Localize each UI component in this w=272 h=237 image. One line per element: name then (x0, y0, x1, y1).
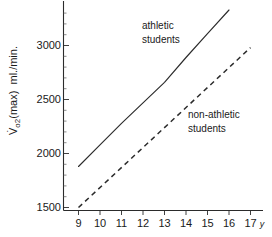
y-tick-label-1500: 1500 (37, 201, 61, 213)
annotation-athletic-line-2: students (142, 34, 180, 45)
chart-figure: 3000 2500 2000 1500 9 10 11 12 13 14 15 … (0, 0, 272, 237)
x-tick-label-15: 15 (201, 217, 213, 229)
annotation-athletic-line-1: athletic (142, 20, 174, 31)
chart-plot-area: 3000 2500 2000 1500 9 10 11 12 13 14 15 … (0, 0, 272, 237)
svg-text:V̇o2(max) ml./min.: V̇o2(max) ml./min. (7, 46, 22, 135)
x-tick-label-9: 9 (75, 217, 81, 229)
annotation-non-athletic-students: non-athletic students (188, 109, 240, 134)
x-tick-label-13: 13 (158, 217, 170, 229)
x-tick-label-14: 14 (180, 217, 192, 229)
x-axis-unit-label: y (259, 219, 265, 229)
x-tick-label-10: 10 (94, 217, 106, 229)
y-axis-major-ticks (64, 46, 70, 208)
y-axis-title-rest: (max) ml./min. (7, 46, 19, 119)
annotation-athletic-students: athletic students (142, 20, 180, 45)
annotation-non-athletic-line-2: students (188, 123, 226, 134)
y-tick-label-2500: 2500 (37, 93, 61, 105)
x-axis-ticks (79, 211, 251, 216)
x-axis-tick-labels: 9 10 11 12 13 14 15 16 17 (75, 217, 256, 229)
y-axis-title: V̇o2(max) ml./min. (7, 46, 22, 135)
x-tick-label-16: 16 (223, 217, 235, 229)
y-tick-label-2000: 2000 (37, 147, 61, 159)
annotation-non-athletic-line-1: non-athletic (188, 109, 240, 120)
y-tick-label-3000: 3000 (37, 39, 61, 51)
axes-group (64, 1, 264, 211)
x-tick-label-11: 11 (116, 217, 127, 229)
x-tick-label-12: 12 (137, 217, 149, 229)
x-tick-label-17: 17 (244, 217, 256, 229)
y-axis-tick-labels: 3000 2500 2000 1500 (37, 39, 61, 213)
